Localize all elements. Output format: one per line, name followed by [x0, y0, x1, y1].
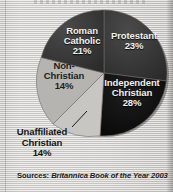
pie-label-non-christian: Non- Christian 14% [38, 61, 90, 91]
pie-label-unaffiliated-christian-line2: Christian [22, 137, 62, 148]
pie-label-roman-catholic-pct: 21% [54, 46, 110, 56]
pie-label-protestant: Protestant 23% [104, 31, 164, 51]
right-edge-shading [166, 0, 173, 192]
pie-label-independent-christian: Independent Christian 28% [98, 78, 166, 108]
pie-label-unaffiliated-christian: Unaffiliated Christian 14% [4, 127, 80, 159]
pie-label-unaffiliated-christian-line1: Unaffiliated [17, 126, 68, 137]
pie-label-non-christian-pct: 14% [38, 81, 90, 91]
pie-label-independent-christian-pct: 28% [98, 98, 166, 108]
source-prefix: Sources: [17, 171, 49, 180]
pie-label-roman-catholic: Roman Catholic 21% [54, 26, 110, 56]
pie-label-unaffiliated-christian-pct: 14% [4, 148, 80, 159]
source-citation: Britannica Book of the Year 2003 [51, 171, 168, 180]
pie-label-protestant-pct: 23% [104, 41, 164, 51]
source-note: Sources: Britannica Book of the Year 200… [17, 171, 169, 180]
figure-panel: Roman Catholic 21% Protestant 23% Indepe… [0, 0, 173, 192]
